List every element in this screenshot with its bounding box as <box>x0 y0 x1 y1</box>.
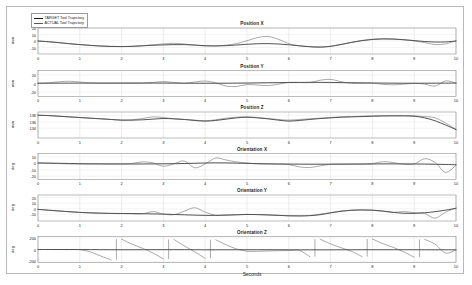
legend-swatch-actual <box>34 23 43 24</box>
x-tick-2-10: 10 <box>454 140 458 145</box>
x-tick-1-7: 7 <box>330 98 332 103</box>
y-tick-0-1: 10 <box>14 32 36 37</box>
y-tick-1-0: 20 <box>14 72 36 77</box>
x-tick-2-7: 7 <box>330 140 332 145</box>
y-tick-5-1: 0 <box>14 247 36 252</box>
subplot-title-1: Position Y <box>240 64 263 69</box>
legend-swatch-target <box>34 18 43 19</box>
x-tick-1-4: 4 <box>204 98 206 103</box>
y-tick-4-1: 10 <box>14 201 36 206</box>
x-tick-1-5: 5 <box>246 98 248 103</box>
x-tick-5-4: 4 <box>204 264 206 269</box>
subplot-title-2: Position Z <box>240 105 263 110</box>
x-tick-0-10: 10 <box>454 56 458 61</box>
x-tick-1-8: 8 <box>371 98 373 103</box>
x-tick-5-5: 5 <box>246 264 248 269</box>
x-tick-4-6: 6 <box>288 223 290 228</box>
y-tick-1-2: -20 <box>14 90 36 95</box>
x-tick-5-1: 1 <box>79 264 81 269</box>
y-tick-2-2: 134 <box>14 126 36 131</box>
x-tick-3-7: 7 <box>330 181 332 186</box>
x-tick-3-9: 9 <box>413 181 415 186</box>
x-tick-4-0: 0 <box>37 223 39 228</box>
x-tick-0-4: 4 <box>204 56 206 61</box>
figure-frame <box>6 6 464 274</box>
x-tick-0-8: 8 <box>371 56 373 61</box>
x-tick-3-10: 10 <box>454 181 458 186</box>
y-tick-2-1: 136 <box>14 119 36 124</box>
y-tick-0-2: 0 <box>14 39 36 44</box>
x-tick-5-2: 2 <box>121 264 123 269</box>
legend: TARGET Tool Trajectory ACTUAL Tool Traje… <box>31 13 88 28</box>
x-tick-4-7: 7 <box>330 223 332 228</box>
x-tick-0-6: 6 <box>288 56 290 61</box>
x-tick-3-2: 2 <box>121 181 123 186</box>
y-tick-3-0: 10 <box>14 154 36 159</box>
x-tick-0-3: 3 <box>162 56 164 61</box>
y-tick-3-1: 0 <box>14 161 36 166</box>
x-tick-1-3: 3 <box>162 98 164 103</box>
x-tick-4-3: 3 <box>162 223 164 228</box>
x-tick-4-5: 5 <box>246 223 248 228</box>
x-tick-4-9: 9 <box>413 223 415 228</box>
x-tick-2-1: 1 <box>79 140 81 145</box>
x-tick-0-9: 9 <box>413 56 415 61</box>
y-tick-4-3: -10 <box>14 212 36 217</box>
subplot-title-4: Orientation Y <box>237 188 267 193</box>
x-tick-1-2: 2 <box>121 98 123 103</box>
y-tick-1-1: 0 <box>14 81 36 86</box>
x-tick-5-6: 6 <box>288 264 290 269</box>
x-tick-0-7: 7 <box>330 56 332 61</box>
x-tick-3-6: 6 <box>288 181 290 186</box>
x-tick-1-10: 10 <box>454 98 458 103</box>
x-tick-3-1: 1 <box>79 181 81 186</box>
x-tick-0-0: 0 <box>37 56 39 61</box>
x-tick-1-9: 9 <box>413 98 415 103</box>
x-tick-5-9: 9 <box>413 264 415 269</box>
x-tick-1-1: 1 <box>79 98 81 103</box>
x-tick-4-8: 8 <box>371 223 373 228</box>
legend-item-actual: ACTUAL Tool Trajectory <box>34 21 84 26</box>
x-tick-2-5: 5 <box>246 140 248 145</box>
x-tick-3-3: 3 <box>162 181 164 186</box>
subplot-title-5: Orientation Z <box>237 230 267 235</box>
x-tick-2-4: 4 <box>204 140 206 145</box>
x-tick-0-5: 5 <box>246 56 248 61</box>
x-tick-2-8: 8 <box>371 140 373 145</box>
x-tick-0-2: 2 <box>121 56 123 61</box>
x-tick-4-4: 4 <box>204 223 206 228</box>
x-tick-4-2: 2 <box>121 223 123 228</box>
x-tick-1-6: 6 <box>288 98 290 103</box>
figure-canvas: TARGET Tool Trajectory ACTUAL Tool Traje… <box>0 0 472 285</box>
x-axis-label: Seconds <box>243 272 262 277</box>
y-tick-4-2: 0 <box>14 206 36 211</box>
x-tick-2-3: 3 <box>162 140 164 145</box>
y-tick-3-3: -20 <box>14 174 36 179</box>
x-tick-2-0: 0 <box>37 140 39 145</box>
x-tick-3-0: 0 <box>37 181 39 186</box>
subplot-title-0: Position X <box>240 21 263 26</box>
legend-label-actual: ACTUAL Tool Trajectory <box>45 21 84 26</box>
y-tick-2-0: 138 <box>14 113 36 118</box>
x-tick-1-0: 0 <box>37 98 39 103</box>
subplot-title-3: Orientation X <box>237 147 267 152</box>
x-tick-3-4: 4 <box>204 181 206 186</box>
x-tick-5-7: 7 <box>330 264 332 269</box>
y-tick-4-0: 20 <box>14 195 36 200</box>
y-tick-3-2: -10 <box>14 167 36 172</box>
x-tick-5-3: 3 <box>162 264 164 269</box>
x-tick-3-8: 8 <box>371 181 373 186</box>
x-tick-4-10: 10 <box>454 223 458 228</box>
x-tick-2-6: 6 <box>288 140 290 145</box>
x-tick-3-5: 5 <box>246 181 248 186</box>
x-tick-2-2: 2 <box>121 140 123 145</box>
y-tick-0-3: -10 <box>14 45 36 50</box>
x-tick-5-0: 0 <box>37 264 39 269</box>
x-tick-5-8: 8 <box>371 264 373 269</box>
y-tick-5-0: 200 <box>14 235 36 240</box>
x-tick-5-10: 10 <box>454 264 458 269</box>
x-tick-0-1: 1 <box>79 56 81 61</box>
x-tick-4-1: 1 <box>79 223 81 228</box>
x-tick-2-9: 9 <box>413 140 415 145</box>
y-tick-5-2: -200 <box>14 259 36 264</box>
